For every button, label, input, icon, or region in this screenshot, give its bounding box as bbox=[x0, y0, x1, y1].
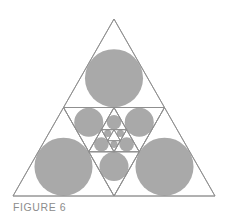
inscribed-circle bbox=[85, 49, 143, 107]
inscribed-circles bbox=[34, 49, 193, 196]
inscribed-circle bbox=[135, 138, 193, 196]
inscribed-circle bbox=[99, 152, 128, 181]
inscribed-circle bbox=[34, 138, 92, 196]
inscribed-circle bbox=[125, 108, 154, 137]
inscribed-circle bbox=[74, 108, 103, 137]
figure-caption: FIGURE 6 bbox=[13, 201, 66, 213]
sierpinski-circle-packing-diagram bbox=[0, 0, 228, 218]
